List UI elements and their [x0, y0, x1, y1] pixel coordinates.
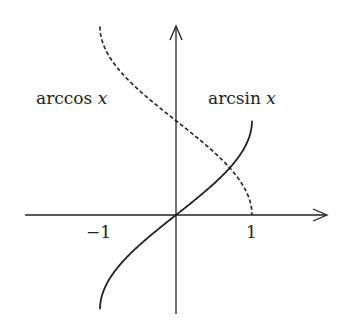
arcsin-label-var: x [266, 88, 276, 108]
arccos-label-fn: arccos [36, 88, 92, 108]
x-tick-label-neg1: −1 [86, 224, 111, 241]
x-tick-label-pos1: 1 [246, 224, 257, 241]
arcsin-label-fn: arcsin [208, 88, 261, 108]
plot-area [0, 0, 351, 324]
arccos-label-var: x [98, 88, 108, 108]
arccos-label: arccos x [36, 90, 107, 107]
arcsin-label: arcsin x [208, 90, 276, 107]
y-axis [170, 26, 182, 314]
